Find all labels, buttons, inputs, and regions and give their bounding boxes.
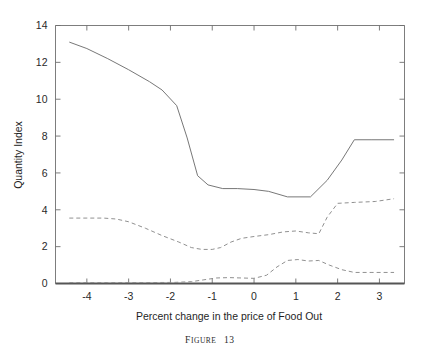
- x-tick-label: 0: [251, 290, 257, 302]
- x-axis-tick-labels: -4-3-2-10123: [82, 290, 382, 302]
- x-tick-label: -2: [166, 290, 175, 302]
- series-line-dashed-middle: [69, 199, 394, 250]
- x-tick-label: 2: [335, 290, 341, 302]
- y-tick-label: 12: [36, 56, 48, 68]
- series-line-dashed-lower: [69, 260, 394, 283]
- x-tick-label: 3: [377, 290, 383, 302]
- y-axis-title: Quantity Index: [12, 120, 24, 188]
- x-axis-tickmarks-top: [87, 26, 380, 31]
- figure-caption-word: IGURE: [191, 336, 216, 345]
- x-tick-label: 1: [293, 290, 299, 302]
- x-tick-label: -3: [124, 290, 133, 302]
- y-axis-tickmarks: [56, 26, 61, 284]
- y-axis-tick-labels: 02468101214: [36, 19, 48, 289]
- y-tick-label: 14: [36, 19, 48, 31]
- y-tick-label: 2: [42, 240, 48, 252]
- x-tick-label: -4: [82, 290, 91, 302]
- data-series-group: [69, 42, 394, 282]
- figure-caption-number: 13: [224, 335, 234, 345]
- y-tick-label: 4: [42, 204, 48, 216]
- figure-container: -4-3-2-10123 02468101214 Percent change …: [0, 0, 427, 353]
- plot-frame: [56, 26, 405, 284]
- y-tick-label: 8: [42, 130, 48, 142]
- chart-plot-area: -4-3-2-10123 02468101214 Percent change …: [0, 0, 427, 353]
- y-tick-label: 10: [36, 93, 48, 105]
- y-tick-label: 6: [42, 167, 48, 179]
- series-line-solid-upper: [69, 42, 394, 197]
- y-tick-label: 0: [42, 277, 48, 289]
- figure-caption: F IGURE 13: [185, 335, 234, 345]
- figure-caption-prefix: F: [185, 335, 191, 345]
- y-axis-tickmarks-right: [400, 26, 405, 284]
- x-axis-title: Percent change in the price of Food Out: [136, 310, 322, 322]
- x-tick-label: -1: [208, 290, 217, 302]
